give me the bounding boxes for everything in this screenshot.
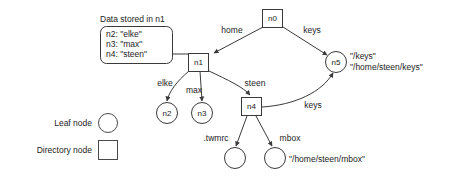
data-box-line-2: n3: "max": [106, 39, 142, 49]
legend-leaf-icon: [99, 114, 118, 133]
annotation-mbox-path: "/home/steen/mbox": [289, 154, 365, 164]
edge-n4-mbox: [256, 116, 272, 146]
node-n1-label: n1: [194, 58, 203, 67]
data-box-caption: Data stored in n1: [100, 14, 165, 24]
node-n0-label: n0: [268, 14, 277, 23]
legend-directory-icon: [99, 141, 118, 160]
node-n4-label: n4: [247, 102, 256, 111]
edge-n4-n5: [262, 73, 333, 107]
annotation-keys-path-2: "/home/steen/keys": [350, 62, 423, 72]
edge-label-steen: steen: [245, 78, 266, 88]
data-box-line-3: n4: "steen": [106, 49, 147, 59]
legend-directory-label: Directory node: [37, 145, 93, 155]
name-resolution-graph: Data stored in n1 n2: "elke" n3: "max" n…: [0, 0, 463, 176]
edge-label-elke: elke: [157, 78, 173, 88]
data-box-line-1: n2: "elke": [106, 29, 142, 39]
edge-label-mbox: mbox: [280, 133, 302, 143]
node-mbox-leaf[interactable]: [265, 148, 286, 169]
node-n5-label: n5: [332, 58, 341, 67]
edge-n4-twmrc: [236, 116, 247, 146]
edge-label-home: home: [221, 25, 243, 35]
node-twmrc-leaf[interactable]: [225, 148, 246, 169]
diagram-canvas: Data stored in n1 n2: "elke" n3: "max" n…: [0, 0, 463, 176]
edge-label-twmrc: .twmrc: [203, 133, 229, 143]
edge-label-max: max: [186, 85, 203, 95]
legend-leaf-label: Leaf node: [54, 118, 92, 128]
edge-label-keys-bottom: keys: [304, 100, 321, 110]
node-n2-label: n2: [163, 109, 172, 118]
annotation-keys-path-1: "/keys": [350, 51, 376, 61]
node-n3-label: n3: [198, 109, 207, 118]
edge-label-keys-top: keys: [303, 25, 320, 35]
